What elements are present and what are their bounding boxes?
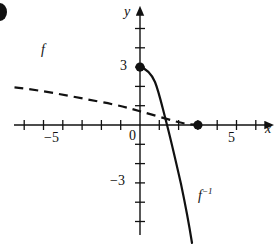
y-tick-label-neg3: −3 xyxy=(110,174,125,188)
curve-label-f-inverse: f−1 xyxy=(198,189,212,203)
y-tick-label-3: 3 xyxy=(120,59,127,73)
x-axis-label: x xyxy=(265,122,271,136)
origin-label: 0 xyxy=(129,129,136,143)
curve-f-inverse xyxy=(140,67,192,243)
curve-label-f: f xyxy=(41,43,45,57)
curve-label-f-inverse-exponent: −1 xyxy=(202,186,213,196)
function-graph-figure: y x 0 −5 5 3 −3 f f−1 xyxy=(0,0,279,249)
point-0-3 xyxy=(135,63,144,72)
point-3-0 xyxy=(193,120,202,129)
x-tick-label-5: 5 xyxy=(228,131,235,145)
curve-f xyxy=(15,87,199,125)
y-axis-label: y xyxy=(124,5,130,19)
plot-canvas xyxy=(0,0,279,249)
x-tick-label-neg5: −5 xyxy=(44,131,59,145)
